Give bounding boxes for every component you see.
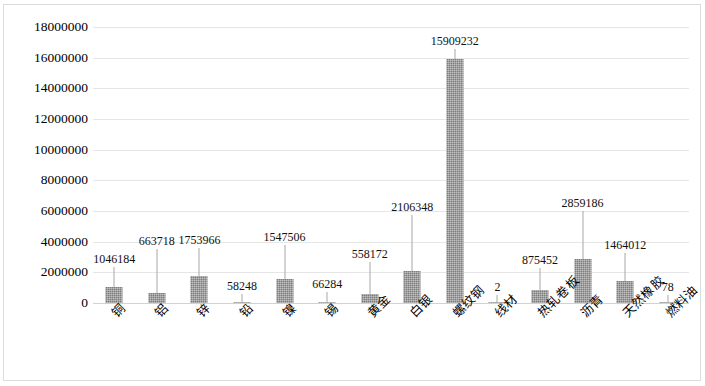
y-axis-tick-label: 4000000 — [0, 235, 88, 249]
y-axis-tick-label: 8000000 — [0, 174, 88, 188]
bar[interactable] — [106, 287, 123, 303]
bar-value-label: 875452 — [522, 254, 558, 266]
plot-area: 1046184663718175396658248154750666284558… — [93, 27, 689, 303]
label-leader-line — [199, 248, 200, 276]
y-axis: 0200000040000006000000800000010000000120… — [0, 0, 88, 386]
bar-value-label: 1046184 — [93, 253, 135, 265]
bar-slot: 1464012 — [604, 27, 647, 303]
x-axis-tick-label: 锌 — [195, 302, 213, 320]
y-axis-tick-label: 16000000 — [0, 51, 88, 65]
bar-value-label: 2 — [494, 281, 500, 293]
label-leader-line — [114, 267, 115, 287]
y-axis-tick-label: 14000000 — [0, 82, 88, 96]
bar-slot: 875452 — [519, 27, 562, 303]
label-leader-line — [412, 215, 413, 271]
bar-value-label: 1547506 — [264, 231, 306, 243]
bar-slot: 1753966 — [178, 27, 221, 303]
label-leader-line — [156, 249, 157, 293]
bar-slot: 2 — [476, 27, 519, 303]
bar-value-label: 2106348 — [391, 201, 433, 213]
bar-value-label: 1464012 — [604, 239, 646, 251]
label-leader-line — [241, 294, 242, 302]
bar-slot: 66284 — [306, 27, 349, 303]
label-leader-line — [327, 292, 328, 302]
bar-value-label: 58248 — [227, 280, 257, 292]
y-axis-tick-label: 18000000 — [0, 20, 88, 34]
bar[interactable] — [276, 279, 293, 303]
bar-slot: 78 — [646, 27, 689, 303]
bar-value-label: 558172 — [352, 248, 388, 260]
y-axis-tick-label: 12000000 — [0, 112, 88, 126]
bar-value-label: 66284 — [312, 278, 342, 290]
bar-slot: 1046184 — [93, 27, 136, 303]
bar-value-label: 2859186 — [562, 197, 604, 209]
y-axis-tick-label: 10000000 — [0, 143, 88, 157]
bar-slot: 558172 — [348, 27, 391, 303]
bar-value-label: 15909232 — [431, 35, 479, 47]
label-leader-line — [582, 211, 583, 259]
y-axis-tick-label: 6000000 — [0, 204, 88, 218]
label-leader-line — [369, 262, 370, 294]
bar-chart: 0200000040000006000000800000010000000120… — [0, 0, 705, 386]
bar-slot: 15909232 — [434, 27, 477, 303]
bar-slot: 1547506 — [263, 27, 306, 303]
x-axis-tick-label: 锡 — [323, 302, 341, 320]
x-axis-tick-label: 铜 — [110, 302, 128, 320]
bar-slot: 663718 — [136, 27, 179, 303]
bar-slot: 58248 — [221, 27, 264, 303]
x-axis-tick-label: 镍 — [281, 302, 299, 320]
label-leader-line — [625, 253, 626, 281]
x-axis-tick-label: 铅 — [238, 302, 256, 320]
x-axis-tick-label: 铝 — [153, 302, 171, 320]
bar[interactable] — [446, 59, 463, 303]
y-axis-tick-label: 0 — [0, 296, 88, 310]
bar-value-label: 1753966 — [178, 234, 220, 246]
label-leader-line — [667, 295, 668, 303]
label-leader-line — [454, 49, 455, 59]
label-leader-line — [284, 245, 285, 279]
bar-value-label: 663718 — [139, 235, 175, 247]
label-leader-line — [539, 268, 540, 290]
x-axis: 铜铝锌铅镍锡黄金白银螺纹钢线材热轧卷板沥青天然橡胶燃料油 — [93, 303, 689, 386]
y-axis-tick-label: 2000000 — [0, 266, 88, 280]
bar[interactable] — [191, 276, 208, 303]
bar-slot: 2106348 — [391, 27, 434, 303]
bar-slot: 2859186 — [561, 27, 604, 303]
